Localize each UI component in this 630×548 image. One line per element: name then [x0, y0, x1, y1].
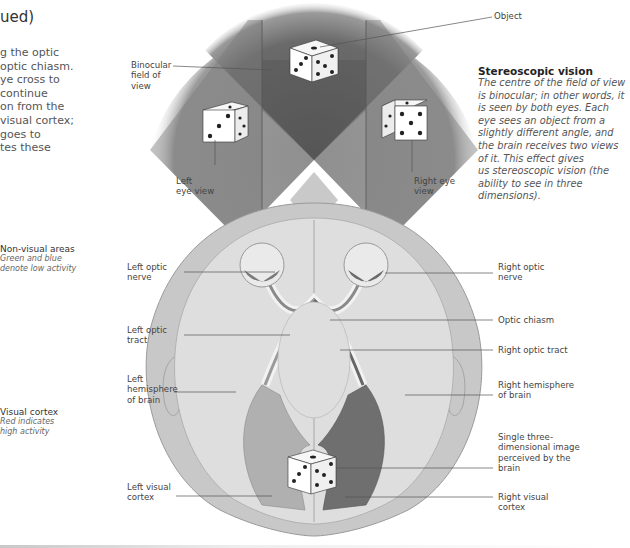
legend-visual-title: Visual cortex [0, 407, 58, 417]
label-left-eye-view: Left eye view [176, 176, 214, 197]
die-left-view [203, 102, 248, 142]
legend-visual-desc: Red indicates high activity [0, 417, 58, 437]
label-optic-chiasm: Optic chiasm [498, 315, 554, 325]
label-right-optic-nerve: Right optic nerve [498, 262, 545, 283]
die-right-view [382, 100, 427, 140]
label-left-visual-cortex: Left visual cortex [127, 482, 171, 503]
label-object: Object [494, 11, 522, 21]
legend-non-visual: Non-visual areas Green and blue denote l… [0, 244, 76, 274]
die-object [290, 40, 338, 82]
label-right-visual-cortex: Right visual cortex [498, 492, 548, 513]
legend-non-visual-title: Non-visual areas [0, 244, 76, 254]
legend-visual-cortex: Visual cortex Red indicates high activit… [0, 407, 58, 437]
intro-text: g the optic optic chiasm. ye cross to co… [0, 46, 140, 155]
section-heading: ued) [0, 8, 34, 26]
die-perceived [288, 450, 336, 494]
legend-non-visual-desc: Green and blue denote low activity [0, 254, 76, 274]
label-left-optic-tract: Left optic tract [127, 325, 167, 346]
sidebar-body: The centre of the field of view is binoc… [478, 77, 630, 203]
sidebar-title: Stereoscopic vision [478, 65, 630, 77]
label-right-hemisphere: Right hemisphere of brain [498, 380, 574, 401]
label-right-eye-view: Right eye view [414, 176, 455, 197]
label-right-optic-tract: Right optic tract [498, 345, 568, 355]
label-binocular-field: Binocular field of view [131, 60, 171, 91]
label-left-optic-nerve: Left optic nerve [127, 262, 167, 283]
label-single-3d-image: Single three- dimensional image perceive… [498, 432, 580, 474]
label-left-hemisphere: Left hemisphere of brain [127, 374, 178, 405]
stereoscopic-vision-panel: Stereoscopic vision The centre of the fi… [478, 65, 630, 203]
